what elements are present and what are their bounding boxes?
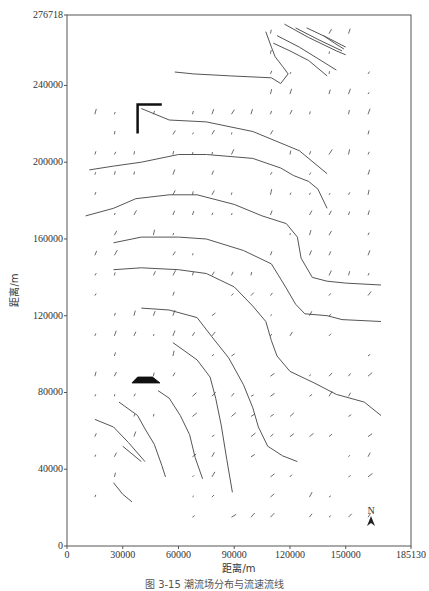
velocity-vector xyxy=(173,292,174,296)
y-tick-label: 80000 xyxy=(38,386,63,397)
velocity-vector xyxy=(270,50,271,54)
velocity-vector xyxy=(231,149,233,154)
x-axis-title: 距离/m xyxy=(222,562,255,574)
velocity-vector xyxy=(231,110,234,115)
velocity-vector xyxy=(309,173,310,175)
y-tick-label: 40000 xyxy=(38,463,63,474)
velocity-vector xyxy=(153,414,154,417)
velocity-vector xyxy=(231,354,234,356)
velocity-vector xyxy=(212,495,214,497)
velocity-vector xyxy=(270,513,274,517)
velocity-vector xyxy=(231,272,233,276)
velocity-vector xyxy=(368,210,369,215)
velocity-vector xyxy=(329,231,332,235)
y-tick-label: 200000 xyxy=(33,156,63,167)
velocity-vector xyxy=(329,496,331,497)
velocity-vector xyxy=(95,109,96,114)
velocity-vector xyxy=(329,271,331,276)
contour-line xyxy=(141,109,327,174)
velocity-vector xyxy=(329,193,330,195)
contour-line xyxy=(141,308,297,462)
y-axis: 0400008000012000016000020000024000027671… xyxy=(33,9,67,551)
velocity-vector xyxy=(251,513,255,517)
velocity-vector xyxy=(173,211,175,215)
velocity-vector xyxy=(368,292,371,296)
velocity-vector xyxy=(173,252,175,256)
coast-markers xyxy=(132,105,162,383)
contour-line xyxy=(277,36,336,71)
velocity-vector xyxy=(368,273,369,275)
velocity-vector xyxy=(349,393,351,397)
velocity-vector xyxy=(290,72,291,74)
velocity-vector xyxy=(212,472,215,477)
y-tick-label: 276718 xyxy=(33,9,63,20)
velocity-vector xyxy=(368,453,370,457)
velocity-vector xyxy=(349,455,350,457)
velocity-vector xyxy=(290,434,294,437)
velocity-vector xyxy=(231,393,234,396)
velocity-vector xyxy=(153,230,154,235)
velocity-vector xyxy=(212,272,214,276)
velocity-vector xyxy=(309,311,311,315)
velocity-vector xyxy=(349,192,350,195)
velocity-vector xyxy=(95,455,96,457)
x-tick-label: 185130 xyxy=(396,549,426,560)
velocity-vector xyxy=(192,393,196,397)
contour-line xyxy=(173,343,233,493)
velocity-vector xyxy=(368,190,369,195)
velocity-vector xyxy=(212,452,214,457)
velocity-vector xyxy=(329,373,332,376)
velocity-vector xyxy=(368,152,369,155)
velocity-vector xyxy=(290,89,292,94)
velocity-vector xyxy=(309,514,312,518)
velocity-vector xyxy=(231,514,236,517)
velocity-vector xyxy=(329,293,331,295)
velocity-vector xyxy=(309,193,310,195)
velocity-vector xyxy=(134,210,137,215)
velocity-vector xyxy=(212,152,213,155)
velocity-vector xyxy=(329,211,331,215)
velocity-vector xyxy=(114,250,117,255)
velocity-vector xyxy=(95,294,96,296)
velocity-vector xyxy=(173,270,176,275)
velocity-vector xyxy=(349,373,351,376)
velocity-vector xyxy=(114,112,115,114)
velocity-vector xyxy=(270,189,271,195)
north-arrow-icon xyxy=(367,516,375,526)
contour-lines xyxy=(86,24,381,502)
contour-line xyxy=(284,24,345,55)
velocity-vector xyxy=(192,211,193,215)
contour-line xyxy=(89,155,327,209)
y-tick-label: 240000 xyxy=(33,79,63,90)
velocity-vector xyxy=(192,332,194,336)
velocity-vector xyxy=(270,30,271,34)
velocity-vector xyxy=(368,131,369,135)
velocity-vector xyxy=(270,71,271,74)
velocity-vector xyxy=(290,332,292,336)
velocity-vector xyxy=(290,110,292,114)
velocity-vector xyxy=(290,193,291,195)
velocity-vector xyxy=(349,476,351,477)
velocity-vector xyxy=(95,192,96,195)
velocity-vector xyxy=(114,352,115,356)
velocity-vectors xyxy=(95,29,373,518)
velocity-vector xyxy=(251,109,253,114)
velocity-vector xyxy=(114,331,116,336)
velocity-vector xyxy=(251,293,254,296)
velocity-vector xyxy=(114,372,116,376)
velocity-vector xyxy=(349,212,350,215)
velocity-vector xyxy=(173,190,175,195)
velocity-vector xyxy=(329,71,330,74)
y-tick-label: 160000 xyxy=(33,233,63,244)
velocity-vector xyxy=(329,90,330,94)
coast-block-lower xyxy=(132,377,160,383)
velocity-vector xyxy=(368,109,370,114)
plot-frame xyxy=(67,15,411,546)
x-axis: 0300006000090000120000150000185130 xyxy=(65,546,427,560)
velocity-vector xyxy=(270,172,272,174)
contour-line xyxy=(95,419,145,461)
velocity-vector xyxy=(212,354,214,356)
velocity-vector xyxy=(309,394,312,396)
velocity-vector xyxy=(270,211,272,215)
